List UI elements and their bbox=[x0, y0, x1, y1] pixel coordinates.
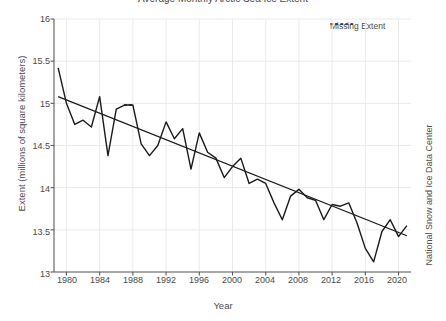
chart-container: Average Monthly Arctic Sea Ice Extent Ex… bbox=[0, 0, 446, 321]
chart-plot-svg bbox=[0, 0, 446, 321]
